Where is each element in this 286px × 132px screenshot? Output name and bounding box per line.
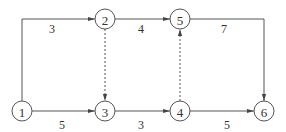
edge-1-to-2 — [22, 19, 95, 101]
node-label: 1 — [19, 105, 26, 120]
edge-weight-5-6: 7 — [221, 22, 227, 36]
edge-5-to-6 — [190, 19, 264, 101]
node-4: 4 — [170, 101, 190, 121]
node-label: 4 — [177, 105, 184, 120]
node-label: 3 — [102, 105, 109, 120]
edge-weight-1-3: 5 — [59, 118, 65, 132]
edge-weight-3-4: 3 — [138, 118, 144, 132]
node-2: 2 — [95, 9, 115, 29]
node-6: 6 — [254, 101, 274, 121]
node-label: 5 — [177, 13, 184, 28]
edge-weight-1-2: 3 — [49, 22, 55, 36]
node-3: 3 — [95, 101, 115, 121]
node-label: 2 — [102, 13, 109, 28]
node-1: 1 — [12, 101, 32, 121]
edge-weight-2-5: 4 — [138, 22, 144, 36]
edge-labels-layer: 354357 — [49, 22, 230, 132]
edge-weight-4-6: 5 — [224, 118, 230, 132]
network-diagram: 354357 123456 — [0, 0, 286, 132]
node-5: 5 — [170, 9, 190, 29]
node-label: 6 — [261, 105, 268, 120]
